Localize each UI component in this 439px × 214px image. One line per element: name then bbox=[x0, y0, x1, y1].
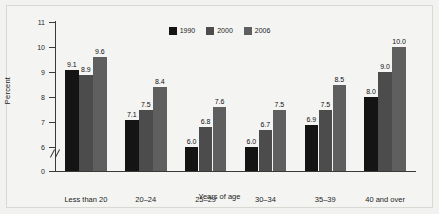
y-tick-label: 8 bbox=[25, 94, 45, 101]
x-tick-label: 40 and over bbox=[340, 195, 430, 204]
bar-2000-25–29 bbox=[199, 127, 213, 171]
y-tick-label: 6 bbox=[25, 144, 45, 151]
bar-2000-20–24 bbox=[139, 110, 153, 172]
bar-value-label: 9.6 bbox=[85, 48, 115, 55]
bar-1990-35–39 bbox=[305, 125, 319, 172]
bar-groups: 9.18.99.6Less than 207.17.58.420–246.06.… bbox=[56, 18, 415, 172]
y-tick-mark bbox=[49, 122, 55, 123]
bar-2000-less-than-20 bbox=[79, 75, 93, 172]
bar-2000-35–39 bbox=[319, 110, 333, 172]
y-tick-mark bbox=[49, 147, 55, 148]
bar-2006-30–34 bbox=[273, 110, 287, 172]
bar-2006-40-and-over bbox=[392, 47, 406, 171]
bar-2000-40-and-over bbox=[378, 72, 392, 171]
bar-2006-less-than-20 bbox=[93, 57, 107, 171]
chart-figure: 1990 2000 2006 Percent Years of age 0678… bbox=[0, 0, 439, 214]
bar-2006-20–24 bbox=[153, 87, 167, 171]
bar-1990-20–24 bbox=[125, 120, 139, 172]
bar-2000-30–34 bbox=[259, 130, 273, 172]
y-tick-label: 0 bbox=[25, 168, 45, 175]
bar-value-label: 7.6 bbox=[205, 98, 235, 105]
bar-value-label: 8.5 bbox=[324, 76, 354, 83]
y-tick-label: 10 bbox=[25, 44, 45, 51]
y-axis-title: Percent bbox=[3, 77, 12, 104]
y-tick-mark bbox=[49, 97, 55, 98]
y-tick-label: 11 bbox=[25, 19, 45, 26]
bar-1990-40-and-over bbox=[364, 97, 378, 171]
y-tick-mark bbox=[49, 72, 55, 73]
bar-value-label: 10.0 bbox=[384, 38, 414, 45]
bar-1990-less-than-20 bbox=[65, 70, 79, 172]
y-tick-mark bbox=[49, 47, 55, 48]
y-tick-label: 7 bbox=[25, 119, 45, 126]
bar-2006-35–39 bbox=[333, 85, 347, 172]
y-tick-mark bbox=[49, 171, 55, 172]
bar-2006-25–29 bbox=[213, 107, 227, 171]
bar-1990-30–34 bbox=[245, 147, 259, 171]
bar-1990-25–29 bbox=[185, 147, 199, 171]
bar-value-label: 7.5 bbox=[264, 101, 294, 108]
bar-value-label: 8.4 bbox=[145, 78, 175, 85]
y-tick-label: 9 bbox=[25, 69, 45, 76]
y-tick-mark bbox=[49, 22, 55, 23]
